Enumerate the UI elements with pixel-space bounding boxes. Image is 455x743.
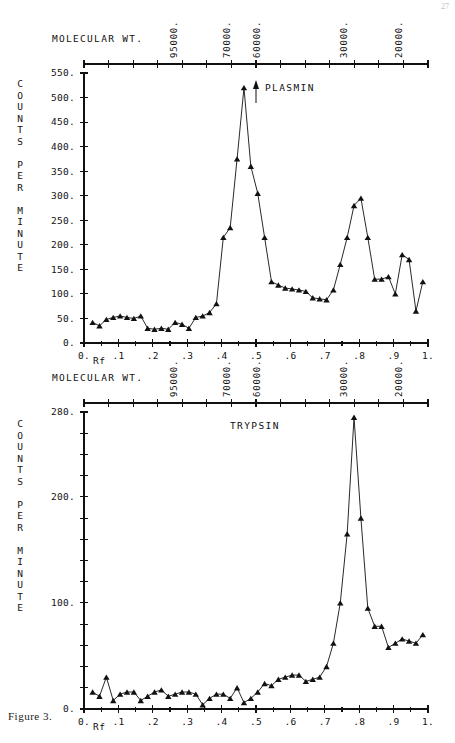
molecular-weight-axis: 95000.70000.60000.30000.20000.	[84, 360, 428, 407]
x-axis-tick-label: .1	[112, 716, 124, 727]
x-axis-tick-label: 1.	[422, 716, 434, 727]
data-point-marker	[199, 313, 205, 318]
data-point-marker	[144, 694, 150, 699]
data-point-marker	[268, 279, 274, 284]
x-axis-tick-label: .6	[284, 716, 296, 727]
data-point-marker	[138, 698, 144, 703]
data-point-marker	[358, 195, 364, 200]
figure-caption: Figure 3.	[8, 710, 52, 722]
molecular-weight-label: 20000.	[394, 360, 404, 397]
data-point-marker	[227, 225, 233, 230]
molecular-weight-label: 60000.	[252, 21, 262, 58]
x-axis-tick-label: .5	[250, 716, 262, 727]
data-point-marker	[255, 191, 261, 196]
data-point-marker	[117, 313, 123, 318]
data-point-marker	[413, 640, 419, 645]
data-point-marker	[206, 310, 212, 315]
data-point-marker	[420, 632, 426, 637]
x-axis-tick-label: 0.	[78, 716, 90, 727]
data-point-marker	[255, 689, 261, 694]
data-point-marker	[392, 291, 398, 296]
data-point-marker	[351, 415, 357, 420]
y-axis-tick-label: 200.	[51, 239, 75, 250]
y-axis-tick-label: 150.	[51, 264, 75, 275]
data-point-marker	[413, 308, 419, 313]
data-point-marker	[310, 677, 316, 682]
y-axis-tick-label: 500.	[51, 92, 75, 103]
data-point-marker	[275, 282, 281, 287]
data-point-marker	[241, 700, 247, 705]
data-point-marker	[179, 322, 185, 327]
data-point-marker	[103, 674, 109, 679]
data-point-marker	[358, 515, 364, 520]
y-axis-tick-label: 50.	[57, 313, 75, 324]
chart-panel-plasmin: MOLECULAR WT. COUNTSPERMINUTE PLASMIN Rf…	[0, 0, 455, 372]
molecular-weight-label: 70000.	[222, 360, 232, 397]
y-axis-tick-label: 400.	[51, 141, 75, 152]
chart-panel-trypsin: MOLECULAR WT. COUNTSPERMINUTE TRYPSIN Rf…	[0, 350, 455, 743]
data-point-marker	[158, 687, 164, 692]
data-point-marker	[172, 320, 178, 325]
data-point-marker	[316, 674, 322, 679]
data-point-marker	[399, 636, 405, 641]
data-point-marker	[261, 235, 267, 240]
molecular-weight-axis: 95000.70000.60000.30000.20000.	[84, 21, 428, 68]
data-point-marker	[186, 326, 192, 331]
y-axis-tick-label: 250.	[51, 215, 75, 226]
data-point-marker	[241, 85, 247, 90]
data-point-marker	[117, 691, 123, 696]
data-point-marker	[282, 674, 288, 679]
data-point-marker	[234, 685, 240, 690]
data-point-marker	[323, 664, 329, 669]
data-point-marker	[365, 235, 371, 240]
data-point-marker	[151, 689, 157, 694]
data-point-marker	[220, 235, 226, 240]
y-axis-tick-label: 0.	[63, 337, 75, 348]
molecular-weight-label: 70000.	[222, 21, 232, 58]
molecular-weight-label: 20000.	[394, 21, 404, 58]
data-point-marker	[206, 696, 212, 701]
y-axis-tick-label: 0.	[63, 703, 75, 714]
y-axis-tick-label: 100.	[51, 288, 75, 299]
x-axis-tick-label: .3	[181, 716, 193, 727]
x-axis-tick-label: .9	[388, 716, 400, 727]
data-point-marker	[138, 313, 144, 318]
data-point-marker	[337, 600, 343, 605]
molecular-weight-marker-arrow	[253, 80, 259, 103]
y-axis-tick-label: 550.	[51, 67, 75, 78]
data-point-marker	[96, 694, 102, 699]
data-point-marker	[213, 301, 219, 306]
data-point-marker	[344, 531, 350, 536]
data-point-marker	[385, 274, 391, 279]
y-axis-tick-label: 100.	[51, 597, 75, 608]
data-point-marker	[365, 605, 371, 610]
data-point-marker	[392, 640, 398, 645]
y-axis-tick-label: 450.	[51, 116, 75, 127]
molecular-weight-label: 95000.	[169, 360, 179, 397]
molecular-weight-label: 60000.	[252, 360, 262, 397]
molecular-weight-label: 30000.	[339, 21, 349, 58]
molecular-weight-label: 30000.	[339, 360, 349, 397]
data-series	[89, 415, 426, 708]
x-axis-tick-label: .7	[319, 716, 331, 727]
y-axis-tick-label: 300.	[51, 190, 75, 201]
data-point-marker	[103, 317, 109, 322]
y-axis-tick-label: 200.	[51, 491, 75, 502]
data-point-marker	[406, 638, 412, 643]
y-axis-tick-label: 280.	[51, 406, 75, 417]
data-point-marker	[344, 235, 350, 240]
data-point-marker	[227, 696, 233, 701]
x-axis-tick-label: .2	[147, 716, 159, 727]
data-point-marker	[399, 252, 405, 257]
chart-svg-trypsin: 95000.70000.60000.30000.20000.0.100.200.…	[0, 350, 455, 743]
data-point-marker	[234, 156, 240, 161]
data-point-marker	[248, 164, 254, 169]
data-point-marker	[172, 691, 178, 696]
data-series	[89, 85, 426, 332]
data-point-marker	[385, 645, 391, 650]
x-axis-tick-label: .8	[353, 716, 365, 727]
chart-svg-plasmin: 95000.70000.60000.30000.20000.0.50.100.1…	[0, 0, 455, 372]
molecular-weight-label: 95000.	[169, 21, 179, 58]
x-axis-tick-label: .4	[216, 716, 228, 727]
chart-axes: 0.50.100.150.200.250.300.350.400.450.500…	[51, 67, 434, 361]
